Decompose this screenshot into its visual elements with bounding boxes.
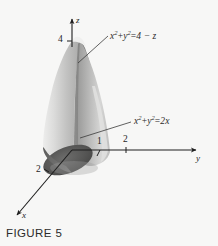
x-axis-label: x [22,210,26,220]
x-tick-label-2: 2 [36,164,41,174]
y-tick-label-1: 1 [97,136,102,146]
equation-label-paraboloid: x2+y2=4 − z [110,29,156,41]
figure-canvas [0,0,218,246]
solid-body [39,37,110,182]
x-axis-line [17,150,72,215]
figure-container: x2+y2=4 − z x2+y2=2x z y x 4 1 2 2 FIGUR… [0,0,218,246]
y-axis-label: y [196,153,200,163]
equation-label-cylinder: x2+y2=2x [134,114,169,126]
paraboloid-rhs: 4 − z [136,31,156,41]
z-tick-label-4: 4 [58,34,63,44]
z-axis-label: z [76,15,80,25]
cylinder-rhs: 2x [160,116,169,126]
figure-caption: FIGURE 5 [6,227,62,239]
y-tick-label-2: 2 [123,134,128,144]
